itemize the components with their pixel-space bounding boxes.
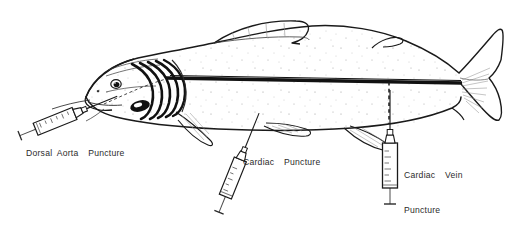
barbel-short (86, 109, 104, 121)
label-cardiac-vein-puncture: Cardiac Vein Puncture Ventral Insertion (404, 147, 477, 229)
nostril (97, 90, 100, 92)
label-cardiac-vein-line-2: Puncture (404, 205, 477, 217)
label-cardiac-vein-line-1: Cardiac Vein (404, 170, 477, 182)
eye-highlight (114, 82, 116, 84)
caudal-peduncle-upper (459, 29, 503, 73)
label-cardiac-puncture: Cardiac Puncture (243, 157, 320, 169)
caudal-peduncle-lower (452, 108, 464, 120)
fish-illustration (52, 21, 503, 151)
caudal-fin (461, 60, 501, 120)
label-dorsal-aorta-puncture: Dorsal Aorta Puncture (26, 148, 125, 160)
